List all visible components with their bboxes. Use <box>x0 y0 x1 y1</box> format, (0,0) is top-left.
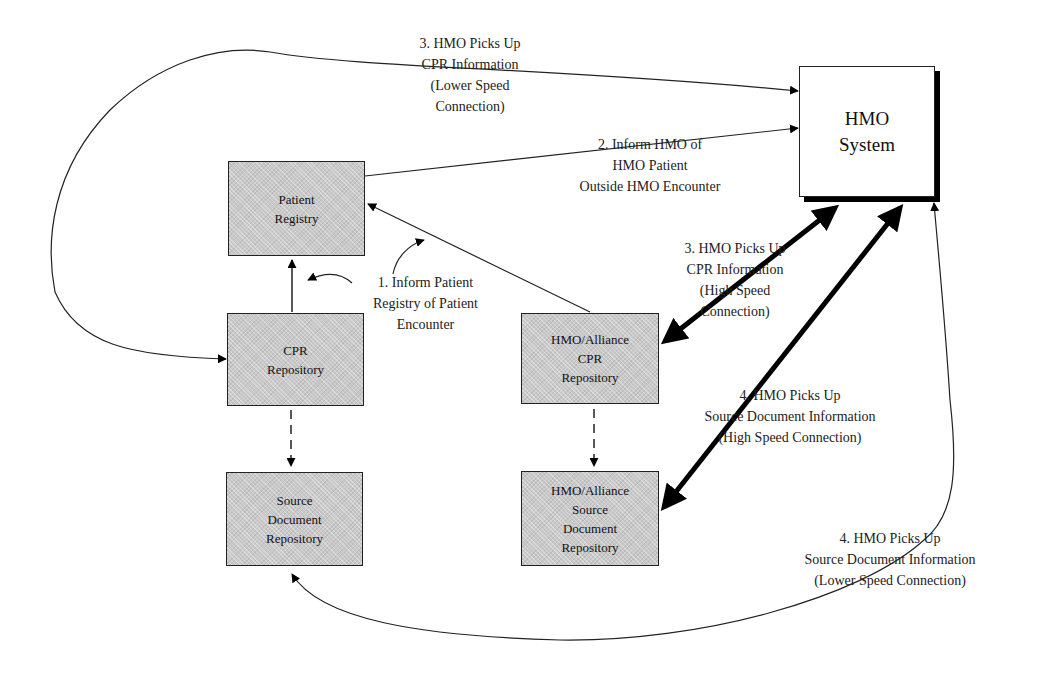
label-step4-low-speed: 4. HMO Picks Up Source Document Informat… <box>770 528 1010 591</box>
node-alliance-cpr-repository: HMO/Alliance CPR Repository <box>521 313 659 404</box>
label-step3-low-speed: 3. HMO Picks Up CPR Information (Lower S… <box>385 33 555 117</box>
node-alliance-cpr-repository-label: HMO/Alliance CPR Repository <box>551 330 629 387</box>
node-source-document-repository: Source Document Repository <box>226 472 363 566</box>
node-alliance-source-document-repository: HMO/Alliance Source Document Repository <box>521 471 659 566</box>
node-source-document-repository-label: Source Document Repository <box>266 491 323 548</box>
node-hmo-system-label: HMO System <box>839 106 895 158</box>
node-patient-registry: Patient Registry <box>228 161 365 256</box>
label-step3-high-speed: 3. HMO Picks Up CPR Information (High Sp… <box>660 238 810 322</box>
node-patient-registry-label: Patient Registry <box>274 190 318 228</box>
label-step2: 2. Inform HMO of HMO Patient Outside HMO… <box>555 134 745 197</box>
node-cpr-repository-label: CPR Repository <box>267 341 324 379</box>
label-step4-high-speed: 4. HMO Picks Up Source Document Informat… <box>675 385 905 448</box>
label-step1: 1. Inform Patient Registry of Patient En… <box>343 272 508 335</box>
step1-pointer-right <box>393 240 424 274</box>
node-alliance-source-document-repository-label: HMO/Alliance Source Document Repository <box>551 481 629 557</box>
node-hmo-system: HMO System <box>799 66 935 197</box>
